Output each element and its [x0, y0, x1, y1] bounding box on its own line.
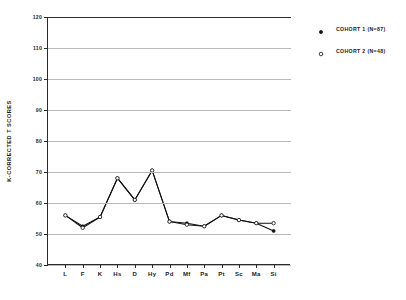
data-point-si-series-2	[272, 221, 275, 224]
x-tick-mark-pt	[222, 264, 223, 268]
data-point-si-series-1	[272, 229, 275, 232]
y-tick-mark-40	[44, 265, 48, 266]
y-tick-label: 80	[36, 138, 42, 144]
x-tick-label-hy: Hy	[148, 271, 156, 277]
x-tick-mark-si	[274, 264, 275, 268]
x-tick-label-mf: Mf	[183, 271, 191, 277]
x-tick-mark-mf	[187, 264, 188, 268]
plot-area: 405060708090100110120LFKHsDHyPdMfPaPtScM…	[47, 17, 290, 265]
x-tick-mark-f	[83, 264, 84, 268]
x-tick-label-pa: Pa	[200, 271, 208, 277]
x-tick-mark-k	[100, 264, 101, 268]
x-tick-mark-d	[135, 264, 136, 268]
data-point-l-series-2	[64, 214, 67, 217]
y-tick-label: 50	[36, 231, 42, 237]
data-point-d-series-2	[133, 198, 136, 201]
data-point-pa-series-2	[203, 225, 206, 228]
x-tick-mark-pa	[204, 264, 205, 268]
y-tick-mark-110	[44, 48, 48, 49]
x-tick-label-hs: Hs	[113, 271, 121, 277]
data-point-f-series-2	[81, 226, 84, 229]
data-point-ma-series-2	[255, 221, 258, 224]
gridline-y-110	[48, 48, 291, 49]
y-tick-mark-90	[44, 110, 48, 111]
x-tick-mark-pd	[170, 264, 171, 268]
x-tick-label-f: F	[81, 271, 85, 277]
data-point-hs-series-2	[116, 177, 119, 180]
chart-legend: COHORT 1 (N=87)COHORT 2 (N=48)	[318, 26, 404, 70]
gridline-y-60	[48, 203, 291, 204]
x-tick-label-d: D	[132, 271, 137, 277]
y-tick-label: 70	[36, 169, 42, 175]
legend-label: COHORT 2 (N=48)	[336, 48, 386, 54]
data-point-pt-series-2	[220, 214, 223, 217]
mmpi-profile-chart: K-CORRECTED T SCORES 4050607080901001101…	[0, 0, 406, 300]
x-tick-mark-hs	[117, 264, 118, 268]
y-axis-title: K-CORRECTED T SCORES	[6, 100, 12, 181]
legend-item-2: COHORT 2 (N=48)	[318, 48, 404, 70]
y-tick-label: 110	[33, 45, 42, 51]
x-tick-label-si: Si	[271, 271, 277, 277]
gridline-y-50	[48, 234, 291, 235]
data-point-k-series-2	[98, 215, 101, 218]
data-point-pd-series-2	[168, 220, 171, 223]
x-tick-mark-ma	[256, 264, 257, 268]
y-tick-mark-80	[44, 141, 48, 142]
x-tick-mark-hy	[152, 264, 153, 268]
y-tick-mark-60	[44, 203, 48, 204]
x-tick-mark-sc	[239, 264, 240, 268]
x-tick-label-k: K	[98, 271, 103, 277]
y-tick-mark-50	[44, 234, 48, 235]
y-tick-mark-70	[44, 172, 48, 173]
x-tick-label-sc: Sc	[235, 271, 243, 277]
series-line-2	[65, 170, 273, 227]
open-circle-icon	[318, 51, 323, 56]
x-tick-label-l: L	[63, 271, 67, 277]
gridline-y-80	[48, 141, 291, 142]
x-tick-label-pd: Pd	[165, 271, 173, 277]
gridline-y-120	[48, 17, 291, 18]
y-tick-mark-100	[44, 79, 48, 80]
filled-circle-icon	[318, 29, 323, 34]
y-tick-label: 100	[33, 76, 42, 82]
gridline-y-70	[48, 172, 291, 173]
data-point-mf-series-2	[185, 223, 188, 226]
x-tick-label-pt: Pt	[218, 271, 225, 277]
y-tick-label: 40	[36, 262, 42, 268]
legend-item-1: COHORT 1 (N=87)	[318, 26, 404, 48]
x-tick-mark-l	[65, 264, 66, 268]
data-point-sc-series-2	[237, 218, 240, 221]
y-tick-label: 90	[36, 107, 42, 113]
y-tick-label: 120	[33, 14, 42, 20]
gridline-y-90	[48, 110, 291, 111]
gridline-y-100	[48, 79, 291, 80]
y-tick-mark-120	[44, 17, 48, 18]
x-tick-label-ma: Ma	[252, 271, 261, 277]
legend-label: COHORT 1 (N=87)	[336, 26, 386, 32]
y-tick-label: 60	[36, 200, 42, 206]
